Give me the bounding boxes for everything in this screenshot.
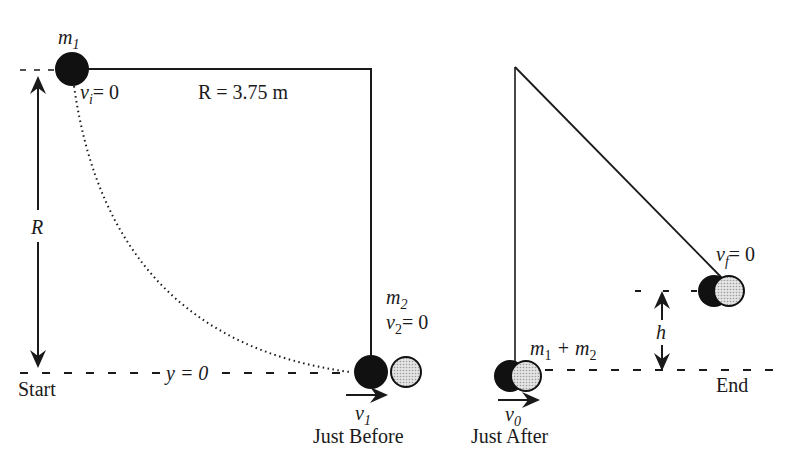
combined-mass2-bottom xyxy=(511,361,541,391)
mass1-label: m1 xyxy=(58,26,79,52)
diagram-canvas: R y = 0 Start m1 vi= 0 R = 3.75 m m2 v2=… xyxy=(0,0,790,459)
height-label: h xyxy=(656,321,666,343)
just-after-caption: Just After xyxy=(471,425,549,447)
final-velocity-label: vf= 0 xyxy=(716,243,755,269)
start-label: Start xyxy=(18,378,56,400)
left-panel: R y = 0 Start m1 vi= 0 R = 3.75 m m2 v2=… xyxy=(18,26,428,447)
radius-axis-label: R xyxy=(30,216,43,238)
radius-value-label: R = 3.75 m xyxy=(198,81,289,103)
mass1-before xyxy=(354,355,388,389)
initial-velocity-label: vi= 0 xyxy=(80,81,119,107)
mass2-before xyxy=(391,357,421,387)
mass2-label: m2 xyxy=(386,286,407,312)
combined-mass2-top xyxy=(714,276,744,306)
right-panel: m1 + m2 v0 Just After End h vf= 0 xyxy=(471,67,780,447)
pendulum-string-swung xyxy=(515,67,722,278)
end-label: End xyxy=(716,374,748,396)
y-zero-label: y = 0 xyxy=(164,362,208,385)
combined-mass-label: m1 + m2 xyxy=(530,337,596,363)
swing-path-arc xyxy=(74,86,350,372)
v2-label: v2= 0 xyxy=(386,311,428,337)
just-before-caption: Just Before xyxy=(313,425,404,447)
